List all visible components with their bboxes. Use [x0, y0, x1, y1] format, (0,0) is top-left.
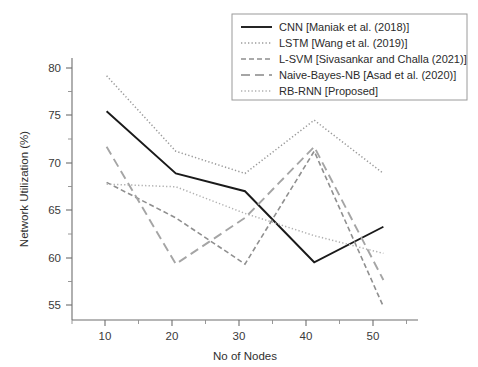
legend-label-l-svm: L-SVM [Sivasankar and Challa (2021)] — [279, 53, 467, 65]
x-ticklabel: 40 — [300, 330, 313, 342]
legend-label-naive-bayes-nb: Naive-Bayes-NB [Asad et al. (2020)] — [279, 69, 456, 81]
y-axis-ticklabels: 80 75 70 65 60 55 — [48, 62, 61, 311]
y-ticklabel: 60 — [48, 252, 61, 264]
x-ticklabel: 50 — [367, 330, 380, 342]
series-line-cnn — [107, 111, 384, 262]
x-axis-ticks — [72, 320, 407, 326]
y-axis-ticks — [66, 68, 72, 305]
x-axis-ticklabels: 10 20 30 40 50 — [99, 330, 380, 342]
y-ticklabel: 80 — [48, 62, 61, 74]
y-ticklabel: 55 — [48, 299, 61, 311]
y-ticklabel: 70 — [48, 157, 61, 169]
x-ticklabel: 20 — [166, 330, 179, 342]
legend: CNN [Maniak et al. (2018)] LSTM [Wang et… — [232, 14, 467, 100]
line-chart-canvas: 80 75 70 65 60 55 10 20 30 40 50 — [0, 0, 478, 367]
x-ticklabel: 10 — [99, 330, 112, 342]
legend-label-lstm: LSTM [Wang et al. (2019)] — [279, 37, 408, 49]
x-ticklabel: 30 — [233, 330, 246, 342]
x-axis-label: No of Nodes — [213, 350, 277, 362]
legend-label-rb-rnn: RB-RNN [Proposed] — [279, 85, 378, 97]
series-line-l-svm — [107, 151, 384, 306]
legend-label-cnn: CNN [Maniak et al. (2018)] — [279, 21, 409, 33]
y-ticklabel: 75 — [48, 109, 61, 121]
y-axis-label: Network Utilization (%) — [18, 131, 30, 247]
chart-figure: 80 75 70 65 60 55 10 20 30 40 50 — [0, 0, 478, 367]
y-ticklabel: 65 — [48, 204, 61, 216]
data-series-group — [107, 76, 384, 307]
